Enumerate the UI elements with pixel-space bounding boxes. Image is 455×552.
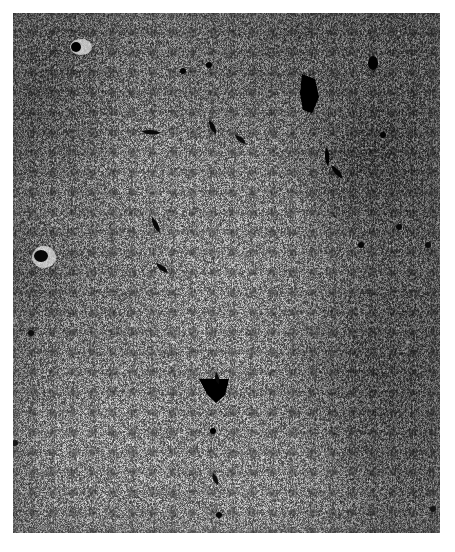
cell-streak-c — [141, 130, 161, 135]
micrograph-page — [0, 0, 455, 552]
cell-streak-a — [325, 147, 330, 167]
cell-dot-c — [358, 242, 364, 248]
cell-streak-f — [209, 120, 216, 134]
discrete-dark-bodies — [13, 13, 440, 533]
dark-body-lower-centre — [199, 379, 229, 403]
dark-body-upper-right — [300, 74, 319, 113]
micrograph-plate — [13, 13, 440, 533]
cell-dot-h — [206, 62, 212, 68]
cell-dot-b — [216, 512, 222, 518]
cell-dot-i — [430, 506, 436, 512]
cell-dot-j — [380, 132, 386, 138]
vessel-mid-left — [32, 246, 56, 268]
cell-streak-b — [331, 165, 343, 179]
vessel-upper-left — [70, 39, 92, 55]
cell-streak-d — [152, 217, 160, 233]
cell-dot-g — [180, 68, 186, 74]
vessel-upper-right — [368, 56, 378, 70]
cell-streak-i — [213, 473, 219, 485]
cell-streak-e — [156, 263, 168, 273]
cell-dot-a — [210, 428, 216, 434]
cell-dot-e — [425, 242, 431, 248]
cell-dot-f — [13, 440, 18, 446]
cell-dot-k — [28, 330, 34, 336]
cell-streak-g — [235, 135, 246, 144]
cell-dot-d — [396, 224, 402, 230]
